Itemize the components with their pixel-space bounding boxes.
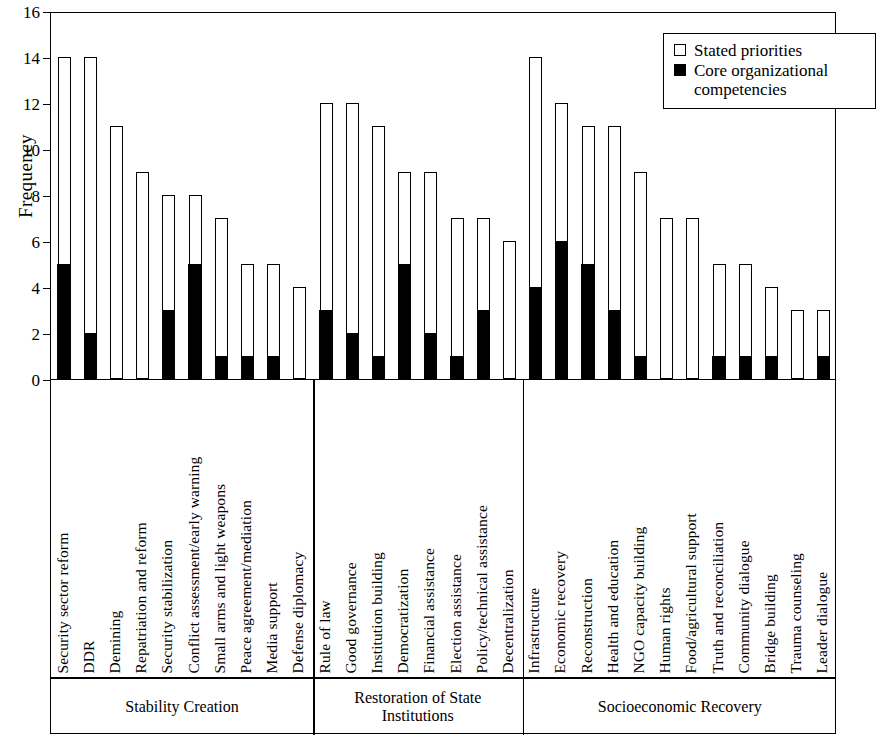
x-axis-category-label: Small arms and light weapons <box>211 483 227 673</box>
bar-stacked <box>477 218 490 379</box>
bar-stacked <box>293 287 306 379</box>
bar-segment-core-competencies <box>372 356 385 379</box>
plot-area: Stated priorities Core organizational co… <box>50 12 836 380</box>
bar-stacked <box>110 126 123 379</box>
bar-segment-core-competencies <box>817 356 830 379</box>
bar-stacked <box>503 241 516 379</box>
bar-segment-core-competencies <box>555 241 568 379</box>
y-axis-tick-label: 0 <box>6 372 40 389</box>
y-axis-tick-label: 8 <box>6 188 40 205</box>
bar-stacked <box>267 264 280 379</box>
x-axis-category-label: Bridge building <box>762 574 778 673</box>
x-axis-category-label: Trauma counseling <box>788 553 804 673</box>
x-axis-category-label: Demining <box>107 610 123 673</box>
bar-stacked <box>634 172 647 379</box>
category-label-band: Security sector reformDDRDeminingRepatri… <box>50 380 836 678</box>
bar-segment-core-competencies <box>188 264 201 379</box>
x-axis-category-label: Defense diplomacy <box>290 551 306 673</box>
bar-stacked <box>346 103 359 379</box>
bar-stacked <box>686 218 699 379</box>
group-footer-band: Stability CreationRestoration of State I… <box>50 678 836 734</box>
bar-segment-core-competencies <box>267 356 280 379</box>
bar-stacked <box>529 57 542 379</box>
x-axis-category-label: Policy/technical assistance <box>473 505 489 673</box>
y-axis-tick-label: 16 <box>6 4 40 21</box>
y-axis-tick-mark <box>43 150 50 151</box>
bar-stacked <box>713 264 726 379</box>
x-axis-category-label: Truth and reconciliation <box>709 521 725 673</box>
chart-legend: Stated priorities Core organizational co… <box>663 33 876 109</box>
y-axis-tick-mark <box>43 12 50 13</box>
bar-stacked <box>162 195 175 379</box>
legend-item-stated-priorities: Stated priorities <box>674 41 865 60</box>
x-axis-category-label: DDR <box>80 640 96 673</box>
bar-segment-core-competencies <box>450 356 463 379</box>
x-axis-category-label: Decentralization <box>500 569 516 673</box>
x-axis-category-label: Conflict assessment/early warning <box>185 456 201 673</box>
bar-segment-core-competencies <box>608 310 621 379</box>
bar-segment-core-competencies <box>477 310 490 379</box>
x-axis-category-label: Repatriation and reform <box>133 522 149 673</box>
bar-stacked <box>372 126 385 379</box>
x-axis-category-label: Security sector reform <box>54 532 70 673</box>
x-axis-category-label: NGO capacity building <box>631 526 647 673</box>
x-axis-category-label: Financial assistance <box>421 547 437 673</box>
bar-stacked <box>582 126 595 379</box>
x-axis-category-label: Security stabilization <box>159 540 175 674</box>
y-axis-ticks: 0246810121416 <box>0 0 40 746</box>
y-axis-tick-mark <box>43 380 50 381</box>
y-axis-tick-mark <box>43 334 50 335</box>
y-axis-tick-label: 14 <box>6 50 40 67</box>
legend-label-stated-priorities: Stated priorities <box>694 41 802 60</box>
bar-segment-core-competencies <box>162 310 175 379</box>
y-axis-tick-mark <box>43 58 50 59</box>
x-axis-category-label: Leader dialogue <box>814 571 830 673</box>
y-axis-tick-label: 10 <box>6 142 40 159</box>
bar-segment-core-competencies <box>739 356 752 379</box>
bar-stacked <box>608 126 621 379</box>
bar-stacked <box>84 57 97 379</box>
bar-segment-core-competencies <box>712 356 725 379</box>
y-axis-tick-mark <box>43 288 50 289</box>
bar-stacked <box>555 103 568 379</box>
x-axis-category-label: Institution building <box>369 552 385 673</box>
x-axis-category-label: Reconstruction <box>578 578 594 673</box>
group-name-label: Stability Creation <box>51 679 313 735</box>
bar-stacked <box>817 310 830 379</box>
bar-segment-core-competencies <box>765 356 778 379</box>
bar-stacked <box>765 287 778 379</box>
x-axis-category-label: Media support <box>264 582 280 673</box>
bar-stacked <box>451 218 464 379</box>
x-axis-category-label: Rule of law <box>316 600 332 673</box>
bar-stacked <box>58 57 71 379</box>
x-axis-category-label: Food/agricultural support <box>683 513 699 674</box>
legend-swatch-stated-priorities-icon <box>674 44 686 56</box>
x-axis-category-label: Health and education <box>604 539 620 673</box>
y-axis-tick-mark <box>43 242 50 243</box>
bar-segment-core-competencies <box>424 333 437 379</box>
x-axis-category-label: Election assistance <box>447 554 463 673</box>
legend-swatch-core-competencies-icon <box>674 64 686 76</box>
bar-segment-core-competencies <box>581 264 594 379</box>
bar-stacked <box>739 264 752 379</box>
bar-stacked <box>398 172 411 379</box>
bar-segment-core-competencies <box>319 310 332 379</box>
bar-segment-core-competencies <box>84 333 97 379</box>
bar-stacked <box>241 264 254 379</box>
bar-stacked <box>320 103 333 379</box>
group-name-label: Restoration of State Institutions <box>313 679 523 735</box>
group-divider <box>313 380 315 678</box>
x-axis-category-label: Good governance <box>342 562 358 673</box>
y-axis-tick-label: 12 <box>6 96 40 113</box>
y-axis-tick-label: 6 <box>6 234 40 251</box>
bar-segment-core-competencies <box>215 356 228 379</box>
bar-stacked <box>791 310 804 379</box>
bar-segment-core-competencies <box>634 356 647 379</box>
x-axis-category-label: Economic recovery <box>552 550 568 673</box>
x-axis-category-label: Community dialogue <box>735 540 751 673</box>
legend-label-core-competencies: Core organizational competencies <box>694 61 828 99</box>
y-axis-tick-mark <box>43 104 50 105</box>
bar-stacked <box>189 195 202 379</box>
x-axis-category-label: Democratization <box>395 568 411 673</box>
group-name-label: Socioeconomic Recovery <box>523 679 837 735</box>
